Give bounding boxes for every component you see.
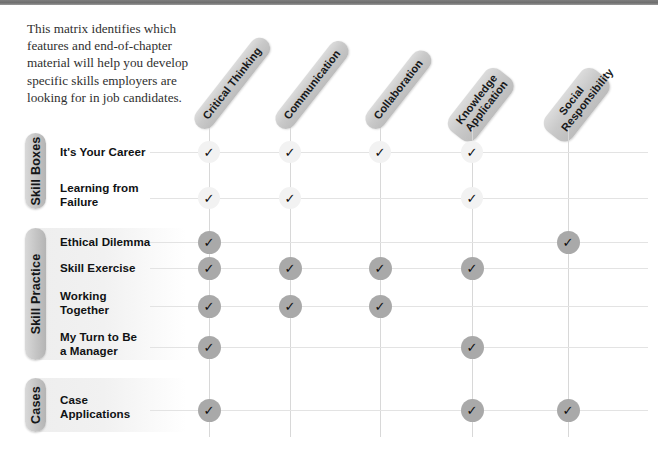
row-label-line: My Turn to Be <box>60 330 137 343</box>
check-icon: ✓ <box>198 336 221 359</box>
row-rule-learning-from-failure <box>150 198 648 199</box>
column-stem-critical-thinking <box>209 128 210 437</box>
row-label-line: Together <box>60 303 109 316</box>
check-icon: ✓ <box>198 141 220 163</box>
row-rule-its-your-career <box>150 152 648 153</box>
group-label: Cases <box>29 386 43 424</box>
row-label-line: Learning from <box>60 181 139 194</box>
check-icon: ✓ <box>461 257 484 280</box>
row-label-learning-from-failure: Learning fromFailure <box>60 181 180 208</box>
row-label-line: Working <box>60 289 107 302</box>
check-icon: ✓ <box>279 141 301 163</box>
intro-paragraph: This matrix identifies which features an… <box>27 20 212 106</box>
column-stem-collaboration <box>380 128 381 437</box>
group-pill-skill-boxes: Skill Boxes <box>25 133 46 209</box>
column-header-collaboration: Collaboration <box>361 46 436 133</box>
check-icon: ✓ <box>557 399 580 422</box>
group-label: Skill Practice <box>29 254 43 335</box>
top-divider-rule <box>0 0 658 5</box>
column-header-communication: Communication <box>271 36 353 133</box>
row-rule-working-together <box>150 306 648 307</box>
row-label-line: It's Your Career <box>60 145 146 158</box>
column-stem-social-responsibility <box>568 128 569 437</box>
column-header-social-responsibility: SocialResponsibility <box>539 64 614 146</box>
check-icon: ✓ <box>461 336 484 359</box>
column-header-label: Communication <box>281 47 342 121</box>
row-label-line: Ethical Dilemma <box>60 235 150 248</box>
row-label-line: Skill Exercise <box>60 261 135 274</box>
row-rule-my-turn-to-be-a-manager <box>150 347 648 348</box>
check-icon: ✓ <box>198 295 221 318</box>
row-label-ethical-dilemma: Ethical Dilemma <box>60 235 180 249</box>
check-icon: ✓ <box>369 257 392 280</box>
check-icon: ✓ <box>461 187 483 209</box>
column-header-label: Collaboration <box>371 57 425 121</box>
row-rule-skill-exercise <box>150 268 648 269</box>
check-icon: ✓ <box>279 187 301 209</box>
check-icon: ✓ <box>279 257 302 280</box>
row-label-skill-exercise: Skill Exercise <box>60 261 180 275</box>
row-label-my-turn-to-be-a-manager: My Turn to Bea Manager <box>60 330 180 357</box>
row-label-working-together: WorkingTogether <box>60 289 180 316</box>
row-label-line: Case <box>60 393 88 406</box>
group-pill-skill-practice: Skill Practice <box>25 228 46 360</box>
check-icon: ✓ <box>198 231 221 254</box>
column-header-knowledge-application: KnowledgeApplication <box>443 64 518 146</box>
row-label-line: Applications <box>60 407 130 420</box>
group-label: Skill Boxes <box>29 137 43 206</box>
check-icon: ✓ <box>198 257 221 280</box>
group-pill-cases: Cases <box>25 378 46 432</box>
check-icon: ✓ <box>198 399 221 422</box>
row-label-line: Failure <box>60 195 98 208</box>
check-icon: ✓ <box>369 295 392 318</box>
row-label-its-your-career: It's Your Career <box>60 145 180 159</box>
check-icon: ✓ <box>557 231 580 254</box>
check-icon: ✓ <box>461 141 483 163</box>
row-label-case-applications: CaseApplications <box>60 393 180 420</box>
check-icon: ✓ <box>279 295 302 318</box>
check-icon: ✓ <box>461 399 484 422</box>
check-icon: ✓ <box>198 187 220 209</box>
column-stem-knowledge-application <box>472 128 473 437</box>
check-icon: ✓ <box>369 141 391 163</box>
column-stem-communication <box>290 128 291 437</box>
row-label-line: a Manager <box>60 344 118 357</box>
